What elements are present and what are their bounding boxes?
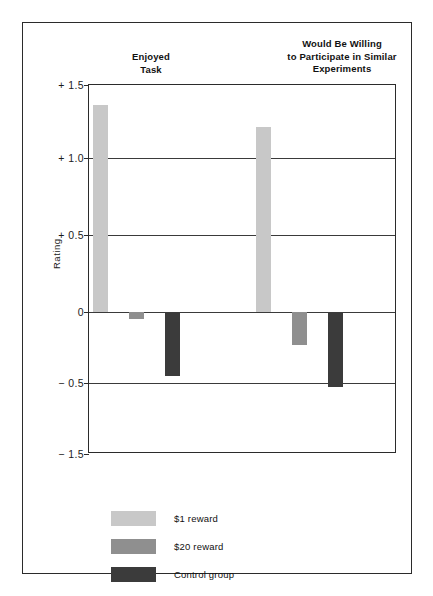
y-tick-label-1: + 1.0 <box>58 152 84 164</box>
y-tick-mark-5 <box>84 454 89 455</box>
legend-swatch-icon <box>111 539 156 554</box>
y-tick-label-3: 0 <box>78 306 84 318</box>
legend-label: $20 reward <box>174 541 224 552</box>
y-axis-title: Rating <box>51 239 62 269</box>
gridline--0-5 <box>89 383 395 384</box>
y-tick-label-2: + 0.5 <box>58 229 84 241</box>
y-tick-mark-3 <box>84 312 89 313</box>
y-tick-mark-1 <box>84 158 89 159</box>
bar-control-group-group-0 <box>165 312 180 376</box>
legend-label: $1 reward <box>174 513 218 524</box>
y-tick-label-4: − 0.5 <box>58 377 84 389</box>
group-header-line: to Participate in Similar <box>266 51 418 64</box>
group-header-line: Experiments <box>266 63 418 76</box>
plot-area: + 1.5+ 1.0+ 0.50− 0.5− 1.5 <box>88 84 396 453</box>
group-header-line: Task <box>105 64 197 77</box>
bar-20-reward-group-1 <box>292 312 307 345</box>
gridline-1 <box>89 158 395 159</box>
legend: $1 reward$20 rewardControl group <box>111 510 234 594</box>
group-header-line: Enjoyed <box>105 51 197 64</box>
group-header-enjoyed-task: EnjoyedTask <box>105 51 197 76</box>
y-tick-label-0: + 1.5 <box>58 79 84 91</box>
legend-item-control-group[interactable]: Control group <box>111 566 234 583</box>
legend-label: Control group <box>174 569 234 580</box>
group-header-line: Would Be Willing <box>266 38 418 51</box>
gridline-0-5 <box>89 235 395 236</box>
legend-swatch-icon <box>111 511 156 526</box>
legend-item-20-reward[interactable]: $20 reward <box>111 538 234 555</box>
group-header-would-be-willing: Would Be Willingto Participate in Simila… <box>266 38 418 76</box>
y-tick-mark-4 <box>84 383 89 384</box>
y-tick-mark-0 <box>84 85 89 86</box>
y-tick-label-5: − 1.5 <box>58 448 84 460</box>
bar-20-reward-group-0 <box>129 312 144 319</box>
bar-1-reward-group-1 <box>256 127 271 312</box>
bar-control-group-group-1 <box>328 312 343 387</box>
y-tick-mark-2 <box>84 235 89 236</box>
legend-item-1-reward[interactable]: $1 reward <box>111 510 234 527</box>
figure-frame: Rating EnjoyedTask Would Be Willingto Pa… <box>22 22 412 574</box>
legend-swatch-icon <box>111 567 156 582</box>
bar-1-reward-group-0 <box>93 105 108 311</box>
